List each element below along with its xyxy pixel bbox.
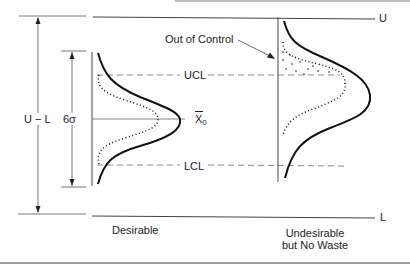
lower-spec-label: L [380, 211, 386, 223]
six-sigma-label: 6σ [62, 113, 77, 125]
ucl-label: UCL [184, 69, 206, 81]
out-of-control-label: Out of Control [165, 33, 233, 45]
undesirable-caption-line1: Undesirable [275, 227, 355, 239]
spec-range-label: U − L [23, 113, 52, 125]
right-process-distribution-curve [284, 21, 370, 178]
mean-subscript: 0 [202, 118, 206, 127]
out-of-control-region [282, 51, 330, 75]
undesirable-caption: Undesirable but No Waste [275, 227, 355, 251]
undesirable-caption-line2: but No Waste [275, 239, 355, 251]
mean-overbar [195, 111, 203, 112]
out-of-control-arrow [238, 40, 275, 59]
lower-spec-line [18, 214, 375, 218]
left-process-distribution-curve [98, 53, 180, 184]
upper-spec-label: U [379, 12, 387, 24]
upper-spec-line [19, 16, 375, 19]
mean-label: X0 [195, 113, 207, 129]
lcl-line-right [208, 165, 345, 166]
desirable-caption: Desirable [112, 224, 158, 236]
right-shifted-distribution-curve [283, 42, 345, 135]
lcl-label: LCL [184, 160, 204, 172]
